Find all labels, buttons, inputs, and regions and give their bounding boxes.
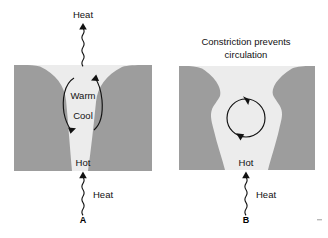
panel-a-warm-label: Warm [71, 90, 96, 101]
panel-b-bottom-heat-arrow-icon [242, 172, 250, 216]
panel-a-top-heat-label: Heat [73, 9, 93, 20]
panel-a-bottom-heat-arrow-icon [79, 172, 87, 216]
panel-a-cool-label: Cool [73, 110, 93, 121]
panel-b-title-line1: Constriction prevents [201, 36, 290, 47]
figure-container: Heat Warm Cool Hot [0, 0, 328, 238]
panel-b: Constriction prevents circulation Hot [179, 36, 322, 225]
panel-a-caption: A [80, 215, 87, 225]
panel-a-bottom-heat-label: Heat [93, 189, 113, 200]
panel-a: Heat Warm Cool Hot [14, 9, 152, 225]
panel-a-top-heat-arrow-icon [79, 23, 87, 66]
panel-b-caption: B [243, 215, 250, 225]
panel-b-title-line2: circulation [225, 49, 268, 60]
registration-mark [317, 219, 322, 220]
panel-b-hot-label: Hot [239, 157, 254, 168]
panel-b-bottom-heat-label: Heat [256, 189, 276, 200]
panel-a-hot-label: Hot [76, 157, 91, 168]
convection-diagram-svg: Heat Warm Cool Hot [0, 0, 328, 238]
